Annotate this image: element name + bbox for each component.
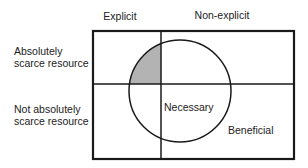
column-header-explicit: Explicit: [103, 10, 136, 22]
venn-matrix-diagram: Explicit Non-explicit Absolutely scarce …: [0, 0, 308, 168]
row-header-absolutely-scarce-line1: Absolutely: [14, 45, 63, 57]
row-header-not-absolutely-scarce-line1: Not absolutely: [14, 103, 81, 115]
beneficial-label: Beneficial: [228, 124, 274, 136]
row-header-absolutely-scarce-line2: scarce resource: [14, 57, 89, 69]
column-header-non-explicit: Non-explicit: [195, 9, 250, 21]
necessary-circle: [129, 40, 231, 142]
row-header-not-absolutely-scarce-line2: scarce resource: [14, 115, 89, 127]
necessary-label: Necessary: [164, 101, 214, 113]
